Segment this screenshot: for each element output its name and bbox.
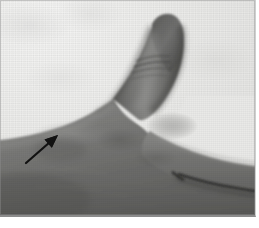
knuckle-shadow-2 — [134, 148, 178, 168]
clinical-photograph-plate — [0, 0, 256, 217]
interosseous-hollow — [34, 139, 86, 161]
hand-illustration — [0, 0, 256, 217]
knuckle-shadow-1 — [96, 128, 144, 152]
thumb — [112, 14, 184, 121]
figure-root: right hand, radial/dorsal view with thum… — [0, 0, 259, 228]
